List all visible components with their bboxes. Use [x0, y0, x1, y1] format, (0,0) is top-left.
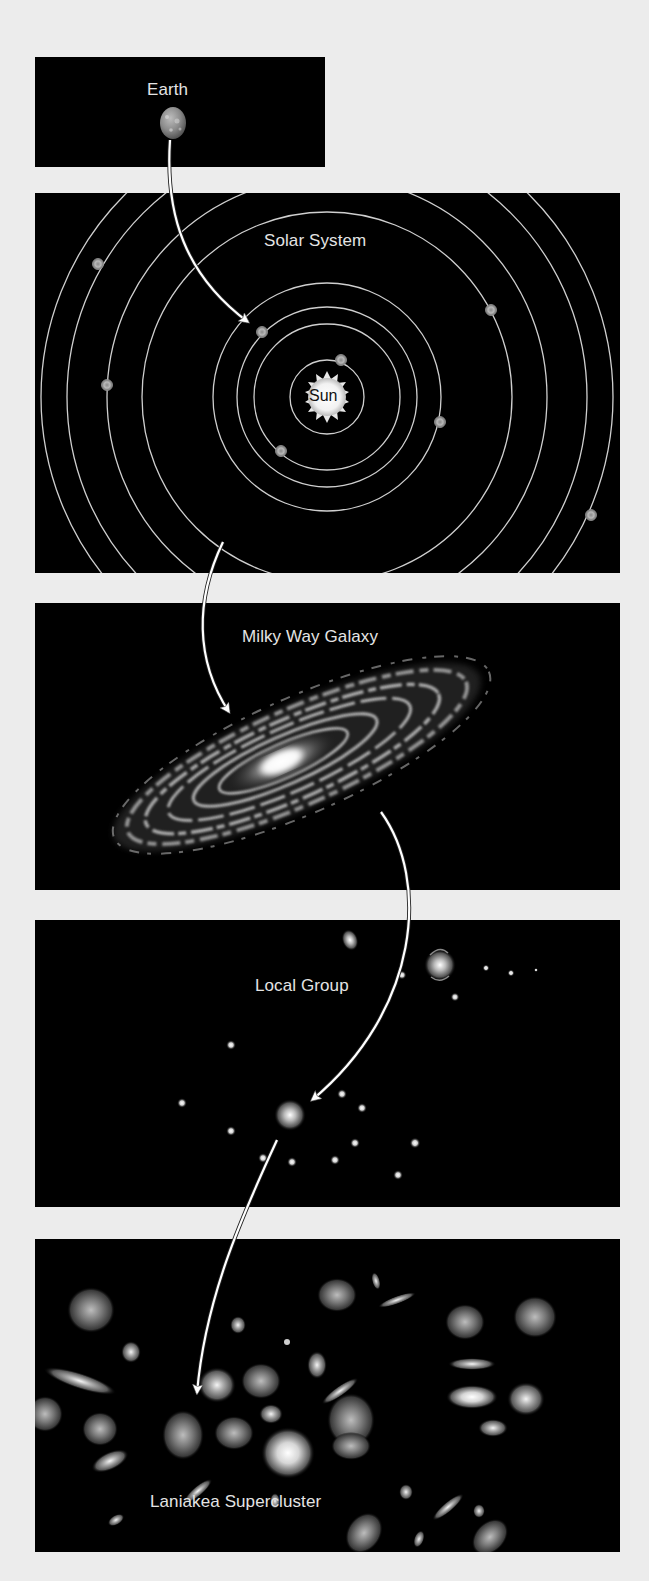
arrow-earth-to-solar-system — [169, 140, 248, 322]
arrow-local-group-to-laniakea — [197, 1140, 277, 1393]
arrow-milky-way-to-local-group — [312, 812, 409, 1100]
zoom-arrows — [0, 0, 649, 1581]
arrow-solar-system-to-milky-way — [203, 542, 229, 712]
